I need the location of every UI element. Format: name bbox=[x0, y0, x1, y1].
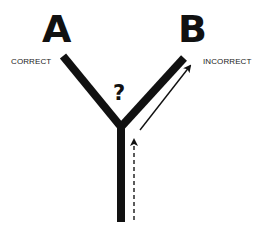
y-maze-diagram: A CORRECT B INCORRECT ? bbox=[0, 0, 262, 238]
option-b-label: INCORRECT bbox=[203, 57, 251, 66]
question-mark: ? bbox=[113, 83, 125, 104]
option-a-label: CORRECT bbox=[11, 57, 51, 66]
option-a-letter: A bbox=[42, 10, 71, 48]
right-arm-line bbox=[120, 58, 184, 128]
y-maze-lines bbox=[0, 0, 262, 238]
option-b-letter: B bbox=[178, 10, 207, 48]
